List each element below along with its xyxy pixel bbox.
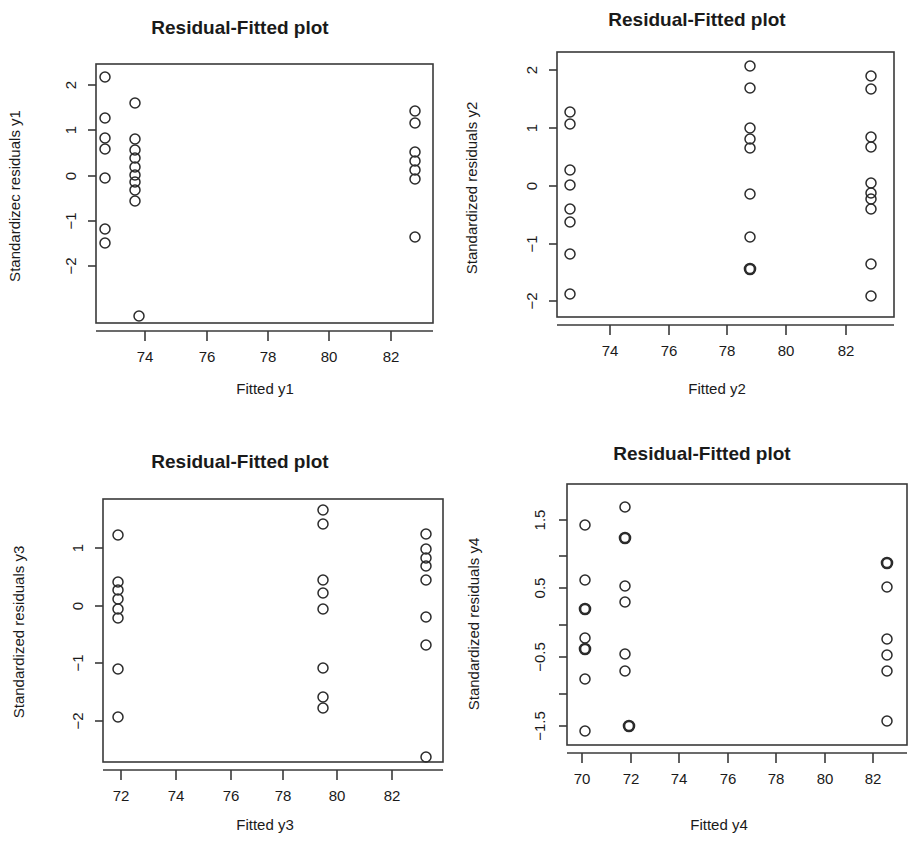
svg-text:2: 2	[523, 66, 540, 74]
y-axis-ticks	[549, 70, 557, 301]
y-axis-label: Standardizec residuals y1	[6, 110, 23, 282]
figure-grid: Residual-Fitted plot Standardizec residu…	[0, 0, 913, 864]
panel-title: Residual-Fitted plot	[608, 9, 786, 30]
svg-text:82: 82	[384, 787, 401, 804]
svg-text:−1: −1	[523, 235, 540, 252]
svg-text:76: 76	[199, 348, 216, 365]
plot-y2[interactable]: Residual-Fitted plot Standardized residu…	[457, 0, 913, 432]
svg-text:−2: −2	[62, 257, 79, 274]
data-points	[100, 72, 420, 321]
svg-text:−2: −2	[69, 712, 86, 729]
plot-frame	[557, 52, 894, 317]
svg-text:74: 74	[671, 770, 688, 787]
plot-frame	[96, 64, 433, 323]
svg-text:1: 1	[523, 124, 540, 132]
data-points	[113, 505, 431, 762]
plot-area-y4: 1.5 0.5 −0.5 −1.5 7072 7476 7880 82	[531, 484, 907, 787]
svg-text:78: 78	[719, 342, 736, 359]
svg-text:0.5: 0.5	[531, 578, 548, 599]
x-axis-label: Fitted y3	[236, 816, 294, 833]
panel-title: Residual-Fitted plot	[151, 451, 329, 472]
svg-text:−1: −1	[69, 654, 86, 671]
x-tick-labels: 7476 7880 82	[137, 348, 400, 365]
y-tick-labels: 1 0 −1 −2	[69, 544, 86, 730]
svg-text:−1: −1	[62, 212, 79, 229]
svg-text:0: 0	[523, 182, 540, 190]
svg-text:82: 82	[383, 348, 400, 365]
svg-text:1: 1	[62, 126, 79, 134]
y-tick-labels: 1.5 0.5 −0.5 −1.5	[531, 510, 548, 741]
svg-text:−2: −2	[523, 292, 540, 309]
svg-text:1.5: 1.5	[531, 510, 548, 531]
plot-area-y3: 1 0 −1 −2 7274 7678 8082	[69, 499, 443, 804]
svg-text:80: 80	[817, 770, 834, 787]
svg-text:78: 78	[768, 770, 785, 787]
plot-y4[interactable]: Residual-Fitted plot Standardized residu…	[457, 432, 913, 864]
y-tick-labels: 2 1 0 −1 −2	[62, 81, 79, 275]
svg-text:76: 76	[223, 787, 240, 804]
x-tick-labels: 7476 7880 82	[602, 342, 855, 359]
y-axis-label: Standardized residuals y2	[463, 102, 480, 275]
plot-frame	[567, 484, 907, 745]
panel-y1: Residual-Fitted plot Standardizec residu…	[0, 0, 457, 432]
svg-text:0: 0	[62, 172, 79, 180]
plot-y1[interactable]: Residual-Fitted plot Standardizec residu…	[0, 0, 457, 432]
data-points	[565, 61, 876, 301]
svg-text:80: 80	[778, 342, 795, 359]
x-axis-ticks	[96, 331, 433, 341]
svg-text:80: 80	[329, 787, 346, 804]
svg-text:−1.5: −1.5	[531, 711, 548, 741]
plot-frame	[103, 499, 443, 762]
svg-text:−0.5: −0.5	[531, 642, 548, 672]
svg-text:80: 80	[321, 348, 338, 365]
x-tick-labels: 7274 7678 8082	[113, 787, 401, 804]
plot-y3[interactable]: Residual-Fitted plot Standardized residu…	[0, 432, 457, 864]
panel-title: Residual-Fitted plot	[151, 17, 329, 38]
svg-text:1: 1	[69, 544, 86, 552]
svg-text:2: 2	[62, 81, 79, 89]
svg-text:76: 76	[661, 342, 678, 359]
x-tick-labels: 7072 7476 7880 82	[574, 770, 882, 787]
y-axis-ticks	[559, 520, 567, 726]
svg-text:74: 74	[602, 342, 619, 359]
plot-area-y2: 2 1 0 −1 −2 7476 7880 82	[523, 52, 894, 359]
x-axis-ticks	[557, 325, 894, 335]
svg-text:72: 72	[623, 770, 640, 787]
x-axis-label: Fitted y4	[690, 816, 748, 833]
y-axis-ticks	[95, 548, 103, 721]
x-axis-label: Fitted y1	[236, 380, 294, 397]
svg-text:76: 76	[720, 770, 737, 787]
y-tick-labels: 2 1 0 −1 −2	[523, 66, 540, 310]
svg-text:82: 82	[838, 342, 855, 359]
svg-text:72: 72	[113, 787, 130, 804]
panel-title: Residual-Fitted plot	[613, 443, 791, 464]
x-axis-ticks	[103, 770, 443, 780]
svg-text:74: 74	[168, 787, 185, 804]
svg-text:82: 82	[865, 770, 882, 787]
data-points	[580, 502, 892, 736]
svg-text:70: 70	[574, 770, 591, 787]
y-axis-label: Standardized residuals y4	[465, 538, 482, 711]
y-axis-label: Standardized residuals y3	[10, 546, 27, 719]
y-axis-ticks	[88, 85, 96, 266]
panel-y2: Residual-Fitted plot Standardized residu…	[457, 0, 913, 432]
svg-text:78: 78	[275, 787, 292, 804]
x-axis-label: Fitted y2	[688, 380, 746, 397]
plot-area-y1: 2 1 0 −1 −2 7476 7880 82	[62, 64, 433, 365]
panel-y4: Residual-Fitted plot Standardized residu…	[457, 432, 913, 864]
x-axis-ticks	[567, 753, 907, 763]
svg-text:78: 78	[260, 348, 277, 365]
panel-y3: Residual-Fitted plot Standardized residu…	[0, 432, 457, 864]
svg-text:74: 74	[137, 348, 154, 365]
svg-text:0: 0	[69, 602, 86, 610]
